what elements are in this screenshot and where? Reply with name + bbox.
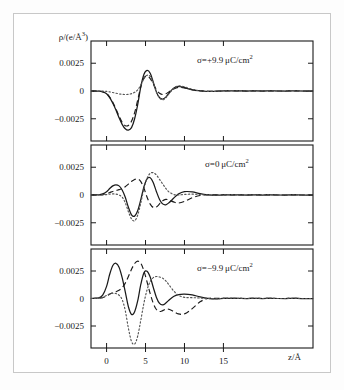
y-tick-label: 0.0025 xyxy=(59,162,84,172)
panel-label-middle: σ=0 μC/cm2 xyxy=(205,158,249,169)
curve-dotted xyxy=(91,75,313,100)
y-tick-label: 0 xyxy=(80,190,85,200)
panel-label-bottom: σ=−9.9 μC/cm2 xyxy=(197,262,253,273)
x-tick-label: 15 xyxy=(219,356,229,366)
y-tick-label: 0.0025 xyxy=(59,266,84,276)
figure-root: 0.00250−0.00250.00250−0.00250.00250−0.00… xyxy=(0,0,344,390)
panel-1: 0.00250−0.0025 xyxy=(54,41,313,141)
panel-label-top: σ=+9.9 μC/cm2 xyxy=(197,54,253,65)
x-tick-label: 10 xyxy=(180,356,190,366)
curve-dotted xyxy=(91,173,313,221)
x-tick-label: 0 xyxy=(104,356,109,366)
y-tick-label: −0.0025 xyxy=(54,218,84,228)
y-tick-label: 0 xyxy=(80,86,85,96)
chart-canvas: 0.00250−0.00250.00250−0.00250.00250−0.00… xyxy=(0,0,344,390)
x-axis-title: z/Å xyxy=(288,353,301,362)
y-tick-label: −0.0025 xyxy=(54,114,84,124)
y-tick-label: −0.0025 xyxy=(54,321,84,331)
curve-solid xyxy=(91,70,313,130)
curve-dashed xyxy=(91,76,313,126)
y-tick-label: 0.0025 xyxy=(59,58,84,68)
curve-solid xyxy=(91,177,313,216)
y-axis-title: ρ/(e/Å3) xyxy=(26,31,88,42)
panel-3: 0.00250−0.0025 xyxy=(54,249,313,348)
panel-2: 0.00250−0.0025 xyxy=(54,145,313,245)
y-tick-label: 0 xyxy=(80,294,85,304)
x-tick-label: 5 xyxy=(143,356,148,366)
